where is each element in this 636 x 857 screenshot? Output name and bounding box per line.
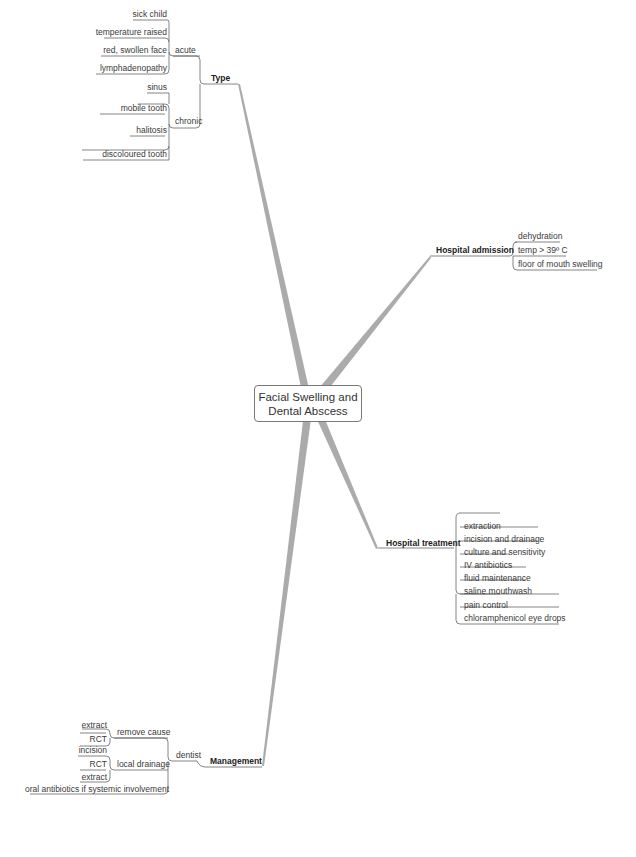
remove-cause-item-extract[interactable]: extract xyxy=(81,720,107,730)
acute-item-sick-child[interactable]: sick child xyxy=(133,9,167,19)
branch-type xyxy=(238,84,312,402)
admission-item-floor-of-mouth[interactable]: floor of mouth swelling xyxy=(518,259,603,269)
chronic-item-discoloured-tooth[interactable]: discoloured tooth xyxy=(102,149,167,159)
subtopic-dentist[interactable]: dentist xyxy=(176,750,201,760)
local-drainage-item-incision[interactable]: incision xyxy=(79,745,107,755)
topic-hospital-treatment[interactable]: Hospital treatment xyxy=(386,538,461,548)
subtopic-remove-cause[interactable]: remove cause xyxy=(117,727,170,737)
chronic-item-mobile-tooth[interactable]: mobile tooth xyxy=(121,103,167,113)
subtopic-local-drainage[interactable]: local drainage xyxy=(117,759,170,769)
local-drainage-item-rct[interactable]: RCT xyxy=(90,759,107,769)
branch-management xyxy=(262,404,313,766)
chronic-item-halitosis[interactable]: halitosis xyxy=(136,125,167,135)
dentist-item-oral-antibiotics[interactable]: oral antibiotics if systemic involvement xyxy=(25,784,169,794)
branch-hospital-treatment xyxy=(310,400,378,549)
treatment-item-chloramphenicol[interactable]: chloramphenicol eye drops xyxy=(464,613,566,623)
treatment-item-extraction[interactable]: extraction xyxy=(464,521,501,531)
treatment-item-fluid-maintenance[interactable]: fluid maintenance xyxy=(464,573,531,583)
acute-item-temperature-raised[interactable]: temperature raised xyxy=(96,27,167,37)
subtopic-acute[interactable]: acute xyxy=(175,45,196,55)
treatment-item-pain-control[interactable]: pain control xyxy=(464,600,508,610)
main-branches xyxy=(238,84,431,766)
treatment-item-iv-antibiotics[interactable]: IV antibiotics xyxy=(464,560,512,570)
admission-item-temp[interactable]: temp > 39º C xyxy=(518,245,568,255)
treatment-item-culture-sensitivity[interactable]: culture and sensitivity xyxy=(464,547,545,557)
topic-management[interactable]: Management xyxy=(210,756,262,766)
central-topic[interactable]: Facial Swelling and Dental Abscess xyxy=(254,385,362,422)
treatment-item-incision-drainage[interactable]: incision and drainage xyxy=(464,534,544,544)
acute-item-lymphadenopathy[interactable]: lymphadenopathy xyxy=(100,63,167,73)
local-drainage-item-extract[interactable]: extract xyxy=(81,772,107,782)
central-topic-line2: Dental Abscess xyxy=(258,404,357,418)
subtopic-chronic[interactable]: chronic xyxy=(175,116,202,126)
topic-hospital-admission[interactable]: Hospital admission xyxy=(436,245,514,255)
central-topic-line1: Facial Swelling and xyxy=(258,390,357,404)
acute-item-red-swollen-face[interactable]: red, swollen face xyxy=(103,45,167,55)
chronic-item-sinus[interactable]: sinus xyxy=(147,82,167,92)
treatment-item-saline-mouthwash[interactable]: saline mouthwash xyxy=(464,586,532,596)
admission-item-dehydration[interactable]: dehydration xyxy=(518,231,562,241)
remove-cause-item-rct[interactable]: RCT xyxy=(90,734,107,744)
branch-hospital-admission xyxy=(309,256,431,405)
topic-type[interactable]: Type xyxy=(211,73,230,83)
